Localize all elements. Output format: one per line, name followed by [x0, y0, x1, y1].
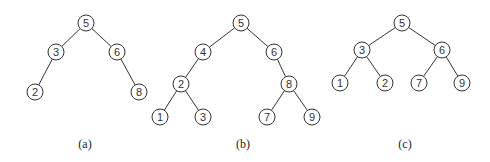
tree-node: 2: [173, 76, 189, 92]
tree-node: 6: [109, 44, 125, 60]
tree-edge: [409, 27, 436, 45]
tree-caption: (a): [78, 137, 91, 151]
tree-node: 8: [281, 76, 297, 92]
tree-edge: [294, 91, 308, 111]
tree-a: 53628(a): [27, 15, 147, 151]
node-label: 9: [309, 111, 315, 123]
node-label: 3: [200, 111, 206, 123]
tree-node: 3: [195, 109, 211, 125]
node-label: 5: [238, 17, 244, 29]
node-label: 1: [337, 77, 343, 89]
tree-node: 2: [27, 84, 43, 100]
tree-edge: [185, 91, 198, 111]
node-label: 9: [459, 77, 465, 89]
node-label: 2: [32, 86, 38, 98]
tree-edge: [92, 28, 111, 46]
tree-node: 3: [48, 44, 64, 60]
tree-node: 7: [411, 75, 427, 91]
tree-edge: [186, 59, 199, 78]
node-label: 2: [382, 77, 388, 89]
node-label: 6: [439, 44, 445, 56]
tree-edge: [446, 57, 458, 76]
tree-node: 9: [454, 75, 470, 91]
node-label: 6: [114, 46, 120, 58]
node-label: 7: [264, 111, 270, 123]
node-label: 3: [359, 44, 365, 56]
tree-node: 1: [332, 75, 348, 91]
node-label: 1: [157, 111, 163, 123]
node-label: 7: [416, 77, 422, 89]
node-label: 5: [83, 17, 89, 29]
node-label: 5: [399, 17, 405, 29]
tree-edge: [367, 57, 381, 77]
node-label: 8: [136, 86, 142, 98]
tree-node: 8: [131, 84, 147, 100]
node-label: 4: [200, 46, 206, 58]
tree-node: 6: [266, 44, 282, 60]
tree-edge: [277, 59, 285, 77]
tree-node: 3: [354, 42, 370, 58]
tree-node: 2: [377, 75, 393, 91]
tree-node: 6: [434, 42, 450, 58]
tree-node: 4: [195, 44, 211, 60]
tree-edge: [271, 91, 284, 111]
tree-edge: [121, 59, 135, 85]
node-label: 2: [178, 78, 184, 90]
tree-edge: [424, 57, 438, 77]
tree-edge: [164, 91, 176, 111]
node-label: 6: [271, 46, 277, 58]
tree-edge: [344, 57, 357, 77]
tree-edge: [369, 27, 396, 45]
tree-b: 546281379(b): [152, 15, 320, 151]
tree-c: 5361279(c): [332, 15, 470, 151]
node-label: 3: [53, 46, 59, 58]
tree-caption: (b): [236, 137, 250, 151]
tree-node: 9: [304, 109, 320, 125]
tree-edge: [209, 28, 234, 47]
tree-node: 1: [152, 109, 168, 125]
tree-node: 5: [233, 15, 249, 31]
tree-caption: (c): [398, 137, 411, 151]
node-label: 8: [286, 78, 292, 90]
tree-node: 7: [259, 109, 275, 125]
binary-tree-diagram: 53628(a)546281379(b)5361279(c): [0, 0, 490, 162]
tree-edge: [62, 29, 80, 47]
tree-edge: [247, 28, 268, 46]
tree-node: 5: [78, 15, 94, 31]
tree-node: 5: [394, 15, 410, 31]
tree-edge: [39, 59, 53, 85]
